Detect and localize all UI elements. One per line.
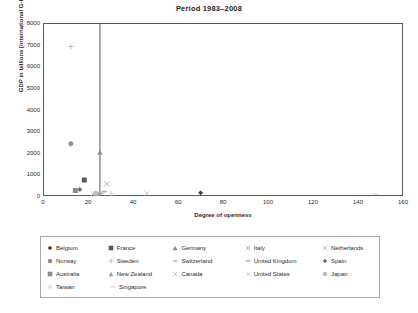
y-tick-label: 6000 [4, 63, 40, 69]
data-point-norway [68, 141, 73, 146]
scatter-plot-canvas [44, 24, 402, 195]
legend-label: Singapore [119, 284, 146, 290]
y-tick-label: 3000 [4, 128, 40, 134]
legend-marker-square-icon [46, 270, 54, 278]
y-tick-label: 8000 [4, 20, 40, 26]
legend-marker-dash-icon [109, 283, 117, 291]
legend-label: United Kingdom [254, 258, 297, 264]
legend-label: Netherlands [331, 245, 363, 251]
legend-marker-circle-icon [46, 257, 54, 265]
legend-label: Taiwan [56, 284, 75, 290]
legend-label: Spain [331, 258, 346, 264]
legend-label: Germany [181, 245, 206, 251]
legend-item-singapore[interactable]: Singapore [109, 283, 176, 291]
legend-item-spain[interactable]: Spain [321, 257, 374, 265]
chart-legend: BelgiumFranceGermanyItalyNetherlandsNorw… [40, 236, 380, 298]
legend-marker-circle-icon [321, 270, 329, 278]
x-tick-label: 120 [298, 199, 328, 206]
legend-marker-cross-x-icon [321, 244, 329, 252]
chart-title: Period 1983–2008 [0, 4, 418, 13]
legend-label: Italy [254, 245, 265, 251]
legend-label: Switzerland [181, 258, 212, 264]
x-tick-label: 80 [208, 199, 238, 206]
legend-label: Australia [56, 271, 79, 277]
y-tick-label: 4000 [4, 107, 40, 113]
legend-marker-dash-icon [244, 257, 252, 265]
legend-label: Norway [56, 258, 76, 264]
legend-item-norway[interactable]: Norway [46, 257, 107, 265]
legend-item-switzerland[interactable]: Switzerland [171, 257, 243, 265]
legend-item-sweden[interactable]: Sweden [107, 257, 172, 265]
legend-marker-triangle-icon [107, 270, 115, 278]
legend-marker-plus-icon [46, 283, 54, 291]
y-tick-label: 2000 [4, 150, 40, 156]
x-tick-label: 160 [388, 199, 418, 206]
legend-item-united-kingdom[interactable]: United Kingdom [244, 257, 321, 265]
plot-area [43, 23, 403, 196]
x-tick-label: 60 [163, 199, 193, 206]
legend-item-united-states[interactable]: United States [244, 270, 321, 278]
y-tick-label: 7000 [4, 42, 40, 48]
legend-row: NorwaySwedenSwitzerlandUnited KingdomSpa… [46, 254, 374, 267]
legend-item-france[interactable]: France [107, 244, 172, 252]
legend-item-germany[interactable]: Germany [171, 244, 243, 252]
data-point-spain [77, 187, 82, 192]
legend-marker-square-icon [107, 244, 115, 252]
legend-label: Sweden [117, 258, 139, 264]
legend-row: BelgiumFranceGermanyItalyNetherlands [46, 241, 374, 254]
data-point-france [82, 178, 87, 183]
legend-marker-diamond-icon [321, 257, 329, 265]
legend-marker-dash-icon [171, 257, 179, 265]
data-point-australia [73, 188, 78, 193]
legend-item-italy[interactable]: Italy [244, 244, 321, 252]
legend-row: AustraliaNew ZealandCanadaUnited StatesJ… [46, 267, 374, 280]
legend-item-australia[interactable]: Australia [46, 270, 107, 278]
legend-item-belgium[interactable]: Belgium [46, 244, 107, 252]
legend-marker-cross-x-icon [244, 270, 252, 278]
data-point-canada [144, 191, 149, 196]
x-tick-label: 40 [118, 199, 148, 206]
legend-marker-triangle-icon [171, 244, 179, 252]
legend-label: Japan [331, 271, 347, 277]
legend-item-japan[interactable]: Japan [321, 270, 374, 278]
x-tick-label: 20 [73, 199, 103, 206]
legend-label: France [117, 245, 136, 251]
legend-marker-plus-icon [107, 257, 115, 265]
legend-item-taiwan[interactable]: Taiwan [46, 283, 109, 291]
legend-marker-diamond-icon [46, 244, 54, 252]
legend-row: TaiwanSingapore [46, 280, 374, 293]
y-axis-tick-labels: 010002000300040005000600070008000 [0, 23, 40, 196]
legend-label: Belgium [56, 245, 78, 251]
x-axis-title: Degree of openness [43, 212, 403, 218]
legend-marker-cross-x-icon [171, 270, 179, 278]
data-point-japan [93, 191, 98, 196]
legend-item-netherlands[interactable]: Netherlands [321, 244, 374, 252]
data-point-taiwan [109, 191, 114, 196]
legend-label: Canada [181, 271, 202, 277]
chart-figure: Period 1983–2008 GDP in billions [intern… [0, 0, 418, 313]
data-point-belgium [198, 190, 203, 195]
x-axis-tick-labels: 020406080100120140160 [43, 199, 403, 209]
legend-item-canada[interactable]: Canada [171, 270, 243, 278]
data-point-italy [104, 181, 109, 186]
x-tick-label: 0 [28, 199, 58, 206]
data-point-germany [97, 150, 102, 155]
legend-marker-cross-x-icon [244, 244, 252, 252]
y-tick-label: 1000 [4, 171, 40, 177]
legend-label: New Zealand [117, 271, 152, 277]
x-tick-label: 100 [253, 199, 283, 206]
data-point-sweden [68, 44, 73, 49]
legend-label: United States [254, 271, 290, 277]
legend-item-new-zealand[interactable]: New Zealand [107, 270, 172, 278]
x-tick-label: 140 [343, 199, 373, 206]
y-tick-label: 5000 [4, 85, 40, 91]
